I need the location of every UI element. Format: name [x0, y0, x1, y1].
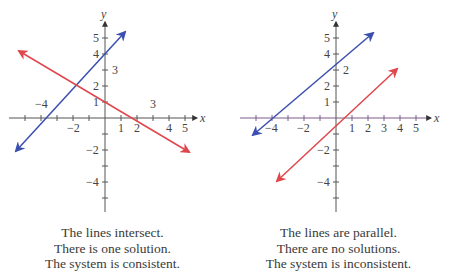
y-tick-label: 4	[93, 47, 99, 61]
x-tick-label: −4	[35, 97, 48, 111]
x-axis-label: x	[199, 111, 206, 125]
caption-line: The system is consistent.	[0, 256, 225, 272]
y-tick-label: 2	[93, 79, 99, 93]
right-caption: The lines are parallel. There are no sol…	[226, 225, 451, 272]
y-tick-label: −4	[317, 175, 330, 189]
y-tick-label: −4	[86, 175, 99, 189]
blue-line	[253, 33, 373, 135]
left-caption: The lines intersect. There is one soluti…	[0, 225, 225, 272]
y-tick-label: 4	[324, 47, 330, 61]
right-graph: x y −4 −2 1 2 3 4 5 5 4 2 2 1 −2 −4	[240, 7, 440, 212]
x-tick-label: 5	[413, 121, 419, 135]
y-tick-label: 2	[324, 79, 330, 93]
y-tick-label: 5	[324, 31, 330, 45]
y-axis-label: y	[100, 7, 107, 21]
x-tick-label: 2	[365, 121, 371, 135]
y-tick-label: 3	[112, 63, 118, 77]
x-tick-label: 4	[166, 121, 172, 135]
y-tick-label: 5	[93, 31, 99, 45]
x-tick-label: −2	[67, 121, 80, 135]
x-tick-label: −2	[297, 121, 310, 135]
x-tick-label: 5	[182, 121, 188, 135]
caption-line: The lines are parallel.	[226, 225, 451, 241]
caption-line: The lines intersect.	[0, 225, 225, 241]
y-tick-label: −2	[86, 143, 99, 157]
x-tick-label: 1	[118, 121, 124, 135]
x-axis-label: x	[433, 111, 440, 125]
caption-line: The system is inconsistent.	[226, 256, 451, 272]
caption-line: There are no solutions.	[226, 241, 451, 257]
y-tick-label: 2	[343, 63, 349, 77]
x-tick-label: 1	[349, 121, 355, 135]
y-tick-label: −2	[317, 143, 330, 157]
x-tick-label: 4	[397, 121, 403, 135]
left-graph: x y −4 −2 1 2 3 4 5 5 4 3 2 1 −2 −4	[9, 7, 206, 212]
x-tick-label: 3	[150, 97, 156, 111]
y-tick-label: 1	[324, 95, 330, 109]
y-axis-label: y	[331, 7, 338, 21]
caption-line: There is one solution.	[0, 241, 225, 257]
x-tick-label: 3	[381, 121, 387, 135]
